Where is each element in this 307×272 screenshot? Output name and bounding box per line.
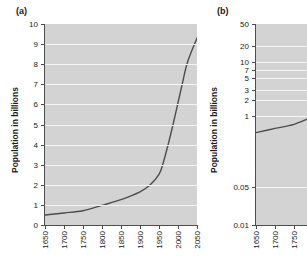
y-tick: [41, 165, 44, 166]
y-tick: [41, 225, 44, 226]
panel-a-label: (a): [16, 6, 27, 16]
x-tick: [294, 226, 295, 229]
gridline: [45, 185, 197, 186]
y-tick-label: 4: [0, 140, 38, 149]
gridline: [256, 100, 307, 101]
gridline: [45, 205, 197, 206]
y-tick: [252, 78, 255, 79]
x-tick: [275, 226, 276, 229]
y-tick-label: 3: [0, 160, 38, 169]
y-tick: [41, 24, 44, 25]
gridline: [256, 70, 307, 71]
y-tick: [41, 145, 44, 146]
y-tick: [252, 187, 255, 188]
y-tick: [252, 116, 255, 117]
x-tick-label: 1800: [98, 231, 107, 249]
x-tick: [159, 226, 160, 229]
gridline: [256, 46, 307, 47]
x-tick-label: 1700: [60, 231, 69, 249]
y-tick-label: 2: [0, 180, 38, 189]
x-tick-label: 1850: [117, 231, 126, 249]
y-tick-label: 6: [0, 100, 38, 109]
gridline: [45, 64, 197, 65]
y-tick: [252, 70, 255, 71]
y-tick-label: 1: [204, 112, 249, 121]
y-tick-label: 5: [0, 120, 38, 129]
gridline: [45, 44, 197, 45]
gridline: [256, 90, 307, 91]
y-tick-label: 50: [204, 20, 249, 29]
gridline: [256, 62, 307, 63]
y-tick-label: 20: [204, 41, 249, 50]
figure-population-growth: (a) Population in billions 012345678910 …: [0, 0, 307, 272]
y-tick-label: 5: [204, 74, 249, 83]
y-tick: [252, 225, 255, 226]
x-tick: [197, 226, 198, 229]
panel-b: (b) Population in billions 502010753210.…: [204, 0, 307, 272]
y-tick-label: 3: [204, 86, 249, 95]
gridline: [45, 145, 197, 146]
panel-a-y-axis-line: [44, 24, 45, 226]
x-tick: [45, 226, 46, 229]
x-tick: [64, 226, 65, 229]
y-tick-label: 2: [204, 95, 249, 104]
y-tick: [41, 84, 44, 85]
x-tick: [256, 226, 257, 229]
y-tick: [41, 125, 44, 126]
panel-a: (a) Population in billions 012345678910 …: [0, 0, 200, 272]
x-tick: [102, 226, 103, 229]
x-tick-label: 1900: [136, 231, 145, 249]
y-tick-label: 8: [0, 60, 38, 69]
y-tick: [41, 205, 44, 206]
y-tick: [252, 46, 255, 47]
x-tick: [178, 226, 179, 229]
x-tick-label: 1650: [252, 231, 261, 249]
panel-b-y-axis-line: [255, 24, 256, 226]
y-tick: [41, 44, 44, 45]
x-tick-label: 1750: [79, 231, 88, 249]
x-tick: [121, 226, 122, 229]
y-tick: [252, 24, 255, 25]
x-tick: [83, 226, 84, 229]
y-tick-label: 0.05: [204, 183, 249, 192]
x-tick-label: 2050: [193, 231, 202, 249]
panel-a-plot-area: [45, 24, 197, 225]
y-tick: [252, 100, 255, 101]
x-tick-label: 1750: [290, 231, 299, 249]
gridline: [45, 125, 197, 126]
y-tick-label: 10: [0, 20, 38, 29]
gridline: [45, 84, 197, 85]
gridline: [256, 116, 307, 117]
y-tick-label: 1: [0, 200, 38, 209]
y-tick: [252, 62, 255, 63]
y-tick: [41, 185, 44, 186]
y-tick-label: 9: [0, 40, 38, 49]
y-tick: [41, 104, 44, 105]
gridline: [45, 165, 197, 166]
y-tick: [41, 64, 44, 65]
y-tick-label: 0.01: [204, 221, 249, 230]
x-tick-label: 1650: [41, 231, 50, 249]
x-tick-label: 1950: [155, 231, 164, 249]
gridline: [256, 78, 307, 79]
y-tick-label: 0: [0, 221, 38, 230]
y-tick: [252, 90, 255, 91]
panel-b-plot-area: [256, 24, 307, 225]
panel-b-data-line: [256, 24, 307, 225]
gridline: [256, 187, 307, 188]
panel-b-x-axis-line: [255, 225, 307, 226]
y-tick-label: 7: [0, 80, 38, 89]
x-tick-label: 1700: [271, 231, 280, 249]
x-tick-label: 2000: [174, 231, 183, 249]
x-tick: [140, 226, 141, 229]
gridline: [45, 104, 197, 105]
panel-b-label: (b): [217, 6, 229, 16]
